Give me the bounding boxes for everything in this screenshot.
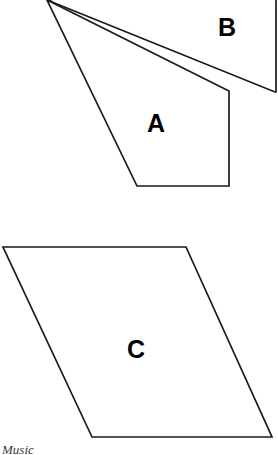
shape-b-label: B [218,15,236,40]
figure-caption: Music [2,443,34,455]
figure-page: B A C Music [0,0,278,455]
geometric-shapes-figure [0,0,278,455]
shape-c-label: C [127,337,145,362]
shape-a-label: A [147,111,165,136]
